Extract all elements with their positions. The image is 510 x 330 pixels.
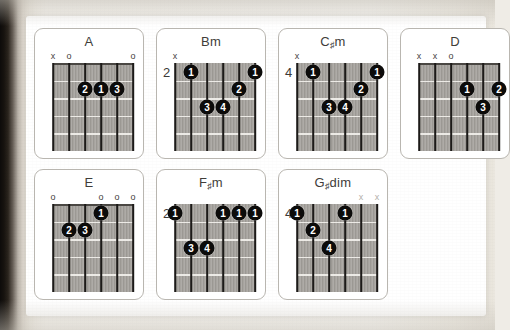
finger-dot-csharpm-s1-f1: 1	[370, 64, 385, 79]
open-string-marker-2: o	[114, 192, 119, 203]
finger-dot-fsharpm-s6-f1: 1	[168, 205, 183, 220]
fret-line-1	[419, 81, 499, 83]
string-1	[132, 63, 134, 151]
string-2	[116, 204, 118, 292]
open-string-marker-4: o	[448, 51, 453, 62]
finger-dot-fsharpm-s3-f1: 1	[216, 205, 231, 220]
string-2	[360, 204, 362, 292]
finger-dot-gsharpdim-s6-f1: 1	[290, 205, 305, 220]
fret-line-1	[297, 81, 377, 83]
fret-line-2	[175, 98, 255, 100]
nut-line	[53, 204, 133, 206]
muted-string-marker-6: x	[173, 51, 178, 62]
fret-line-2	[53, 239, 133, 241]
finger-dot-d-s3-f2: 1	[460, 82, 475, 97]
fret-line-4	[53, 274, 133, 276]
fret-line-4	[175, 274, 255, 276]
string-1	[498, 63, 500, 151]
chord-card-gsharpdim[interactable]: G♯dimxx41124	[278, 169, 388, 300]
string-4	[84, 63, 86, 151]
finger-dot-gsharpdim-s3-f1: 1	[338, 205, 353, 220]
open-string-marker-6: o	[50, 192, 55, 203]
string-6	[52, 63, 54, 151]
fret-line-4	[175, 133, 255, 135]
chord-name-a: A	[35, 34, 143, 49]
string-6	[418, 63, 420, 151]
finger-dot-bm-s4-f3: 3	[200, 100, 215, 115]
finger-dot-csharpm-s3-f3: 4	[338, 100, 353, 115]
string-2	[116, 63, 118, 151]
chord-card-csharpm[interactable]: C♯mx411234	[278, 28, 388, 159]
chord-card-d[interactable]: Dxxo123	[400, 28, 510, 159]
chord-name-e: E	[35, 175, 143, 190]
chord-card-a[interactable]: Axoo213	[34, 28, 144, 159]
muted-string-marker-6: x	[51, 51, 56, 62]
string-5	[68, 63, 70, 151]
chord-name-d: D	[401, 34, 509, 49]
chord-diagram-grid: Axoo213Bmx211234C♯mx411234Dxxo123Eoooo12…	[34, 28, 504, 310]
finger-dot-e-s4-f2: 3	[78, 223, 93, 238]
nut-line	[419, 63, 499, 65]
string-5	[434, 63, 436, 151]
fretboard-wood-texture	[53, 204, 133, 292]
fret-position-number-bm: 2	[163, 65, 170, 78]
string-2	[238, 63, 240, 151]
fret-line-4	[53, 133, 133, 135]
chord-card-e[interactable]: Eoooo123	[34, 169, 144, 300]
finger-dot-e-s5-f2: 2	[62, 223, 77, 238]
string-6	[174, 63, 176, 151]
finger-dot-e-s3-f1: 1	[94, 205, 109, 220]
fret-line-1	[53, 81, 133, 83]
fret-line-1	[175, 81, 255, 83]
finger-dot-bm-s1-f1: 1	[248, 64, 263, 79]
fret-line-4	[419, 133, 499, 135]
fretboard-a	[53, 63, 133, 151]
string-2	[360, 63, 362, 151]
string-1	[132, 204, 134, 292]
finger-dot-gsharpdim-s4-f3: 4	[322, 241, 337, 256]
chord-card-bm[interactable]: Bmx211234	[156, 28, 266, 159]
finger-dot-bm-s5-f1: 1	[184, 64, 199, 79]
fretboard-wood-texture	[297, 204, 377, 292]
string-5	[68, 204, 70, 292]
finger-dot-fsharpm-s4-f3: 4	[200, 241, 215, 256]
finger-dot-fsharpm-s1-f1: 1	[248, 205, 263, 220]
chord-name-gsharpdim: G♯dim	[279, 175, 387, 194]
finger-dot-csharpm-s5-f1: 1	[306, 64, 321, 79]
open-string-marker-5: o	[66, 51, 71, 62]
muted-string-marker-6: x	[417, 51, 422, 62]
finger-dot-bm-s2-f2: 2	[232, 82, 247, 97]
muted-string-marker-5: x	[433, 51, 438, 62]
muted-string-marker-1: x	[375, 192, 380, 203]
fret-line-3	[297, 116, 377, 118]
fret-line-3	[53, 116, 133, 118]
chord-name-bm: Bm	[157, 34, 265, 49]
finger-dot-bm-s3-f3: 4	[216, 100, 231, 115]
muted-string-marker-6: x	[295, 51, 300, 62]
open-string-marker-3: o	[98, 192, 103, 203]
fret-line-3	[53, 257, 133, 259]
finger-dot-csharpm-s4-f3: 3	[322, 100, 337, 115]
chord-card-fsharpm[interactable]: F♯m2111134	[156, 169, 266, 300]
fret-line-3	[419, 116, 499, 118]
string-3	[100, 63, 102, 151]
finger-dot-d-s1-f2: 2	[492, 82, 507, 97]
string-4	[450, 63, 452, 151]
fret-line-3	[175, 116, 255, 118]
string-6	[52, 204, 54, 292]
open-string-marker-1: o	[130, 192, 135, 203]
fret-line-1	[175, 222, 255, 224]
finger-dot-a-s4-f2: 2	[78, 82, 93, 97]
fret-line-2	[297, 239, 377, 241]
fret-line-2	[53, 98, 133, 100]
fret-line-4	[297, 274, 377, 276]
finger-dot-gsharpdim-s5-f2: 2	[306, 223, 321, 238]
fretboard-gsharpdim	[297, 204, 377, 292]
finger-dot-d-s2-f3: 3	[476, 100, 491, 115]
chord-name-fsharpm: F♯m	[157, 175, 265, 194]
string-1	[376, 204, 378, 292]
fretboard-wood-texture	[53, 63, 133, 151]
fret-line-3	[175, 257, 255, 259]
string-5	[312, 204, 314, 292]
finger-dot-a-s2-f2: 3	[110, 82, 125, 97]
